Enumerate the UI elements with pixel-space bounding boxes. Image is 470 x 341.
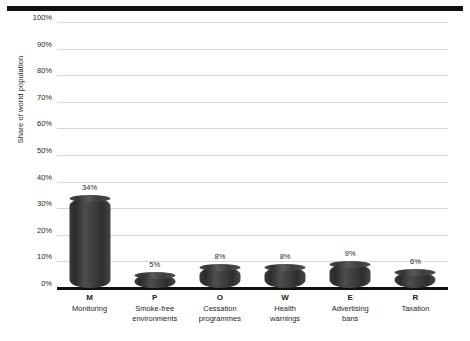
bar-value-label: 6% (410, 257, 421, 266)
bar-value-label: 9% (345, 249, 356, 258)
x-axis-label-p: PSmoke-freeenvironments (122, 292, 187, 323)
y-axis-tick-label: 40% (0, 173, 52, 182)
x-axis-label-w: WHealthwarnings (253, 292, 318, 323)
y-axis-tick-label: 10% (0, 252, 52, 261)
x-axis-description-line1: Cessation (187, 304, 252, 314)
bar-o[interactable] (199, 267, 240, 288)
x-axis-letter: P (122, 292, 187, 303)
bar-value-label: 5% (149, 260, 160, 269)
x-axis-label-r: RTaxation (383, 292, 448, 314)
y-axis-tick-label: 0% (0, 279, 52, 288)
x-axis-description-line1: Smoke-free (122, 304, 187, 314)
bar-e[interactable] (330, 264, 371, 288)
y-axis-tick-label: 60% (0, 119, 52, 128)
y-axis-tick-label: 30% (0, 199, 52, 208)
top-divider-rule (7, 6, 463, 11)
x-axis-description-line2: programmes (187, 314, 252, 324)
x-axis-letter: E (318, 292, 383, 303)
plot-area: 34%5%8%8%9%6% (57, 22, 448, 288)
bar-value-label: 8% (280, 252, 291, 261)
bar-value-label: 34% (82, 183, 97, 192)
y-axis-tick-label: 90% (0, 40, 52, 49)
x-axis-description-line2: warnings (253, 314, 318, 324)
bar-slot: 8% (253, 22, 318, 288)
x-axis-letter: R (383, 292, 448, 303)
x-axis-description-line1: Monitoring (57, 304, 122, 314)
bar-p[interactable] (134, 275, 175, 288)
bar-slot: 9% (318, 22, 383, 288)
x-axis-label-e: EAdvertisingbans (318, 292, 383, 323)
y-axis-tick-label: 50% (0, 146, 52, 155)
bar-value-label: 8% (214, 252, 225, 261)
x-axis-description-line2: bans (318, 314, 383, 324)
y-axis-tick-label: 70% (0, 93, 52, 102)
bar-chart: Share of world population 100%90%80%70%6… (0, 0, 470, 341)
y-axis-tick-label: 20% (0, 226, 52, 235)
y-axis-tick-label: 100% (0, 13, 52, 22)
bar-slot: 8% (187, 22, 252, 288)
y-axis-tick-label: 80% (0, 66, 52, 75)
x-axis-description-line1: Advertising (318, 304, 383, 314)
bar-m[interactable] (69, 198, 110, 288)
x-axis-letter: M (57, 292, 122, 303)
x-axis-description-line2: environments (122, 314, 187, 324)
x-axis-letter: W (253, 292, 318, 303)
x-axis-label-m: MMonitoring (57, 292, 122, 314)
x-axis-label-o: OCessationprogrammes (187, 292, 252, 323)
x-axis-description-line1: Taxation (383, 304, 448, 314)
bar-slot: 5% (122, 22, 187, 288)
bar-r[interactable] (395, 272, 436, 288)
x-axis-description-line1: Health (253, 304, 318, 314)
bar-slot: 34% (57, 22, 122, 288)
y-axis-tick-labels: 100%90%80%70%60%50%40%30%20%10%0% (0, 22, 52, 288)
bar-w[interactable] (265, 267, 306, 288)
x-axis-category-labels: MMonitoringPSmoke-freeenvironmentsOCessa… (57, 292, 448, 340)
bar-slot: 6% (383, 22, 448, 288)
x-axis-letter: O (187, 292, 252, 303)
